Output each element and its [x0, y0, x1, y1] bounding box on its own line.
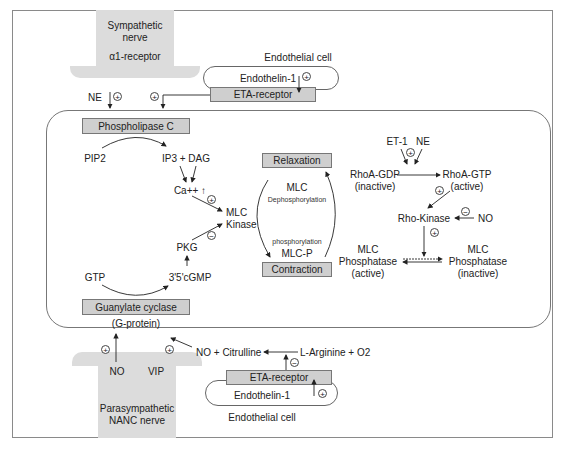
- arrows-layer: [0, 0, 570, 452]
